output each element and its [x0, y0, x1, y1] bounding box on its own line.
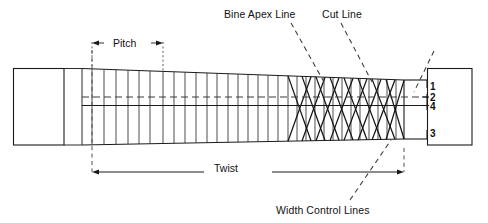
left-end-block [14, 69, 65, 146]
label-edge-number-1: 1 [430, 82, 436, 92]
label-cut-line: Cut Line [322, 9, 362, 20]
label-bine-apex-line: Bine Apex Line [224, 9, 295, 20]
label-edge-number-4: 4 [430, 102, 436, 112]
diagram-canvas: Bine Apex Line Cut Line Width Control Li… [0, 0, 488, 223]
label-pitch-dimension: Pitch [113, 38, 136, 49]
label-edge-number-3: 3 [430, 129, 436, 139]
transition-segment [64, 69, 82, 146]
technical-diagram-svg [0, 0, 488, 223]
leader-bine-apex-line [291, 23, 324, 82]
label-twist-dimension: Twist [214, 163, 238, 174]
leader-cut-line [341, 23, 372, 82]
label-width-control-lines: Width Control Lines [276, 205, 370, 216]
leader-width-control-lines [350, 140, 391, 200]
right-edge-connectors [404, 80, 429, 139]
taper-body-outline [82, 69, 404, 146]
